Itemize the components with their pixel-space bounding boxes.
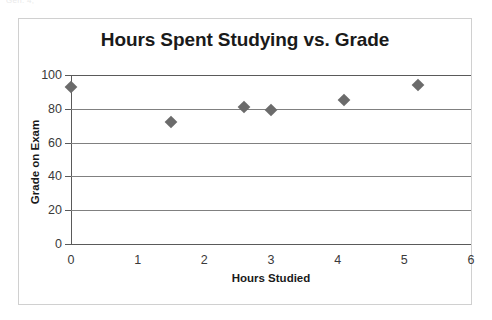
gridline-0: [71, 244, 471, 245]
x-tick-label-0: 0: [68, 253, 75, 267]
data-point-5: [338, 94, 351, 107]
y-tick-label-40: 40: [48, 169, 62, 183]
y-tick-label-60: 60: [48, 136, 62, 150]
data-point-2: [165, 116, 178, 129]
data-point-3: [238, 101, 251, 114]
y-tick-label-80: 80: [48, 102, 62, 116]
y-tick-mark-60: [65, 143, 71, 144]
y-tick-mark-20: [65, 210, 71, 211]
y-axis-title: Grade on Exam: [29, 102, 41, 222]
chart-container: Hours Spent Studying vs. Grade Grade on …: [18, 18, 472, 305]
y-tick-label-100: 100: [41, 68, 62, 82]
gridline-40: [71, 176, 471, 177]
y-tick-label-20: 20: [48, 203, 62, 217]
x-tick-label-5: 5: [401, 253, 408, 267]
chart-title: Hours Spent Studying vs. Grade: [19, 29, 471, 51]
data-point-6: [411, 79, 424, 92]
y-tick-mark-40: [65, 176, 71, 177]
gridline-100: [71, 75, 471, 76]
x-tick-label-2: 2: [201, 253, 208, 267]
y-axis-line: [71, 75, 72, 244]
x-tick-label-1: 1: [134, 253, 141, 267]
y-tick-mark-0: [65, 244, 71, 245]
plot-area: 020406080100 0123456: [71, 75, 471, 244]
y-tick-label-0: 0: [55, 237, 62, 251]
data-point-4: [265, 104, 278, 117]
x-axis-title: Hours Studied: [71, 272, 471, 284]
x-tick-label-6: 6: [468, 253, 475, 267]
gridline-20: [71, 210, 471, 211]
x-tick-label-3: 3: [268, 253, 275, 267]
y-tick-mark-80: [65, 109, 71, 110]
data-point-1: [65, 80, 78, 93]
gridline-60: [71, 143, 471, 144]
x-tick-label-4: 4: [334, 253, 341, 267]
cropped-text-artifact: Gen. 4,: [6, 0, 34, 5]
y-tick-mark-100: [65, 75, 71, 76]
